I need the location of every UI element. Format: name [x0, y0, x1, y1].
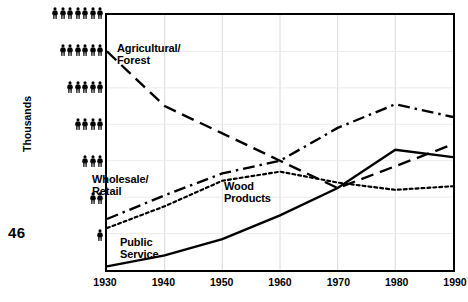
- y-tick-7-thousand: [52, 7, 105, 20]
- series-label-public-service: Public Service: [120, 236, 158, 261]
- person-pictogram-icon: [96, 229, 104, 241]
- x-tick-1970: 1970: [327, 276, 350, 288]
- series-label-wholesale-retail: Wholesale/ Retail: [92, 173, 148, 198]
- series-label-agricultural-forest: Agricultural/ Forest: [117, 42, 181, 67]
- person-pictogram-icon: [96, 81, 104, 93]
- person-pictogram-icon: [96, 7, 104, 19]
- y-tick-1-thousand: [97, 229, 105, 242]
- x-tick-1990: 1990: [443, 276, 466, 288]
- x-tick-1940: 1940: [152, 276, 175, 288]
- series-label-wood-products: Wood Products: [224, 180, 271, 205]
- series-line-agricultural-forest: [107, 51, 453, 188]
- x-tick-1950: 1950: [210, 276, 233, 288]
- y-tick-3-thousand: [82, 155, 105, 168]
- y-tick-4-thousand: [74, 118, 104, 131]
- x-tick-1930: 1930: [93, 276, 116, 288]
- x-tick-1980: 1980: [385, 276, 408, 288]
- y-tick-5-thousand: [67, 81, 105, 94]
- y-axis-pictogram-ticks: [0, 0, 104, 280]
- person-pictogram-icon: [96, 44, 104, 56]
- x-axis-tick-labels: 1930194019501960197019801990: [105, 276, 455, 294]
- person-pictogram-icon: [96, 118, 104, 130]
- figure-container: 46 Thousands 193019401950196019701980199…: [0, 0, 468, 302]
- person-pictogram-icon: [96, 155, 104, 167]
- series-line-wood-products: [107, 172, 453, 228]
- y-tick-6-thousand: [59, 44, 104, 57]
- x-tick-1960: 1960: [268, 276, 291, 288]
